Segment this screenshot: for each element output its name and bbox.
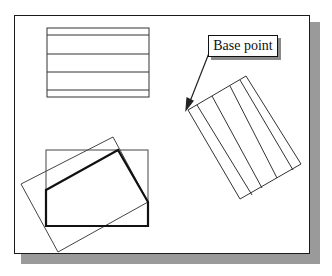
drawing-canvas [0,0,332,276]
bold-pentagon [46,150,148,226]
leader-arrow [186,48,211,110]
base-point-label: Base point [208,35,278,57]
striped-rectangle [47,28,149,97]
rotated-striped-rectangle [188,76,301,199]
rotated-rectangle [21,137,148,252]
